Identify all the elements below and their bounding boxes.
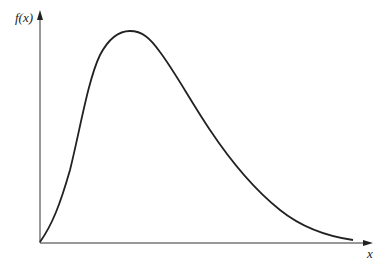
y-axis-arrow-icon [37, 10, 43, 20]
x-axis-label: x [367, 246, 373, 262]
chart [0, 0, 388, 265]
density-curve [40, 31, 353, 242]
y-axis-label: f(x) [15, 10, 33, 26]
